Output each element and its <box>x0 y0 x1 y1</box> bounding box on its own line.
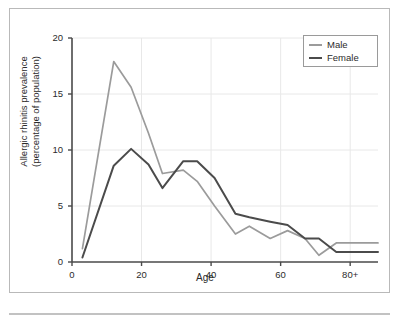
legend-swatch-female <box>309 57 322 59</box>
legend-label-female: Female <box>327 52 359 64</box>
y-axis-label-line2: (percentage of population) <box>29 56 40 167</box>
series-line-male <box>82 62 378 256</box>
legend-item-male[interactable]: Male <box>309 39 377 51</box>
series-paths <box>82 62 378 258</box>
y-tick-label-15: 15 <box>41 88 63 99</box>
figure-container: Allergic rhinitis prevalence (percentage… <box>0 0 401 323</box>
chart-legend: MaleFemale <box>303 35 378 67</box>
x-tick-label-40: 40 <box>194 269 228 280</box>
x-tick-label-0: 0 <box>55 269 89 280</box>
x-tick-label-60: 60 <box>264 269 298 280</box>
x-tick-label-20: 20 <box>125 269 159 280</box>
tick-marks <box>68 38 350 266</box>
y-tick-label-10: 10 <box>41 144 63 155</box>
y-tick-label-0: 0 <box>41 256 63 267</box>
legend-item-female[interactable]: Female <box>309 52 377 64</box>
bottom-divider-rule <box>9 313 390 315</box>
y-tick-label-5: 5 <box>41 200 63 211</box>
series-line-female <box>82 149 378 258</box>
y-axis-label: Allergic rhinitis prevalence (percentage… <box>18 37 41 187</box>
legend-label-male: Male <box>327 39 348 51</box>
x-tick-label-80+: 80+ <box>333 269 367 280</box>
y-tick-label-20: 20 <box>41 32 63 43</box>
y-axis-label-line1: Allergic rhinitis prevalence <box>18 56 29 166</box>
legend-swatch-male <box>309 44 322 46</box>
gridlines <box>72 38 378 262</box>
